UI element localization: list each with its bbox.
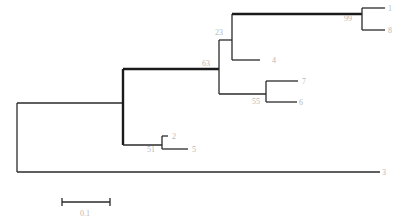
support-value: 51: [147, 145, 155, 154]
tip-label: 7: [302, 77, 306, 86]
tip-label: 1: [388, 4, 392, 13]
tip-label: 2: [172, 132, 176, 141]
tip-label: 3: [382, 168, 386, 177]
support-value: 99: [344, 14, 352, 23]
tip-label: 5: [192, 145, 196, 154]
scale-bar-label: 0.1: [80, 209, 90, 218]
tip-label: 8: [388, 26, 392, 35]
tip-label: 6: [299, 98, 303, 107]
support-value: 63: [202, 59, 210, 68]
support-value: 55: [252, 97, 260, 106]
phylogenetic-tree: 1 8 4 7 6 2 5 3 99 23 63 55 51 0.1: [0, 0, 393, 223]
tip-label: 4: [272, 56, 276, 65]
support-value: 23: [215, 28, 223, 37]
